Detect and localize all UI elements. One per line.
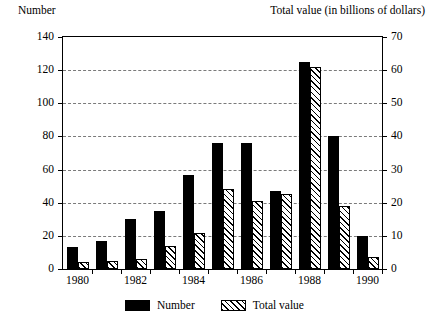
right-axis-title: Total value (in billions of dollars): [270, 4, 425, 16]
left-tick-mark: [58, 269, 62, 270]
right-tick-label: 10: [391, 230, 403, 242]
x-tick-label: 1984: [164, 274, 224, 286]
x-tick-label: 1982: [106, 274, 166, 286]
bar-number: [125, 219, 136, 269]
right-tick-mark: [383, 70, 387, 71]
bar-group: [92, 37, 121, 269]
right-tick-mark: [383, 37, 387, 38]
right-tick-mark: [383, 170, 387, 171]
legend-label-total-value: Total value: [253, 299, 304, 311]
right-tick-mark: [383, 136, 387, 137]
bar-number: [183, 175, 194, 269]
left-tick-label: 40: [14, 197, 54, 209]
bar-number: [96, 241, 107, 269]
right-tick-label: 40: [391, 130, 403, 142]
bar-total-value: [310, 67, 321, 269]
bar-total-value: [78, 262, 89, 269]
left-tick-label: 0: [14, 263, 54, 275]
bar-total-value: [107, 261, 118, 269]
legend-swatch-number: [125, 300, 150, 311]
bar-number: [270, 191, 281, 269]
bar-number: [241, 143, 252, 269]
bar-group: [150, 37, 179, 269]
right-tick-label: 20: [391, 197, 403, 209]
bars-layer: [63, 37, 382, 269]
left-tick-mark: [58, 136, 62, 137]
right-tick-label: 50: [391, 97, 403, 109]
bar-group: [179, 37, 208, 269]
bar-group: [237, 37, 266, 269]
bar-total-value: [281, 194, 292, 269]
left-tick-label: 120: [14, 64, 54, 76]
right-tick-mark: [383, 103, 387, 104]
x-tick-label: 1980: [48, 274, 108, 286]
left-tick-mark: [58, 203, 62, 204]
bar-number: [299, 62, 310, 269]
x-tick-label: 1986: [222, 274, 282, 286]
left-tick-mark: [58, 236, 62, 237]
left-tick-mark: [58, 170, 62, 171]
left-tick-label: 60: [14, 164, 54, 176]
right-tick-label: 60: [391, 64, 403, 76]
bar-total-value: [165, 246, 176, 269]
left-tick-label: 20: [14, 230, 54, 242]
bar-total-value: [194, 233, 205, 269]
bar-group: [353, 37, 382, 269]
right-tick-label: 0: [391, 263, 397, 275]
x-tick-label: 1988: [280, 274, 340, 286]
chart-legend: Number Total value: [0, 299, 429, 311]
bar-group: [324, 37, 353, 269]
bar-group: [266, 37, 295, 269]
bar-total-value: [136, 259, 147, 269]
chart-container: Number Total value (in billions of dolla…: [0, 0, 429, 331]
left-axis-title: Number: [18, 4, 56, 16]
legend-label-number: Number: [157, 299, 195, 311]
bar-group: [63, 37, 92, 269]
bar-total-value: [223, 189, 234, 269]
right-tick-mark: [383, 203, 387, 204]
legend-item-total-value: Total value: [221, 299, 304, 311]
left-tick-mark: [58, 37, 62, 38]
left-tick-mark: [58, 70, 62, 71]
bar-group: [295, 37, 324, 269]
bar-number: [212, 143, 223, 269]
bar-group: [208, 37, 237, 269]
bar-number: [67, 247, 78, 269]
right-tick-label: 70: [391, 31, 403, 43]
bar-number: [154, 211, 165, 269]
x-tick-label: 1990: [338, 274, 398, 286]
bar-number: [357, 236, 368, 269]
left-tick-label: 80: [14, 130, 54, 142]
legend-item-number: Number: [125, 299, 195, 311]
right-tick-mark: [383, 269, 387, 270]
right-tick-mark: [383, 236, 387, 237]
bar-total-value: [368, 257, 379, 269]
bar-number: [328, 136, 339, 269]
bar-group: [121, 37, 150, 269]
left-tick-mark: [58, 103, 62, 104]
legend-swatch-total-value: [221, 300, 246, 311]
bar-total-value: [339, 206, 350, 269]
left-tick-label: 100: [14, 97, 54, 109]
right-tick-label: 30: [391, 164, 403, 176]
bar-total-value: [252, 201, 263, 269]
left-tick-label: 140: [14, 31, 54, 43]
